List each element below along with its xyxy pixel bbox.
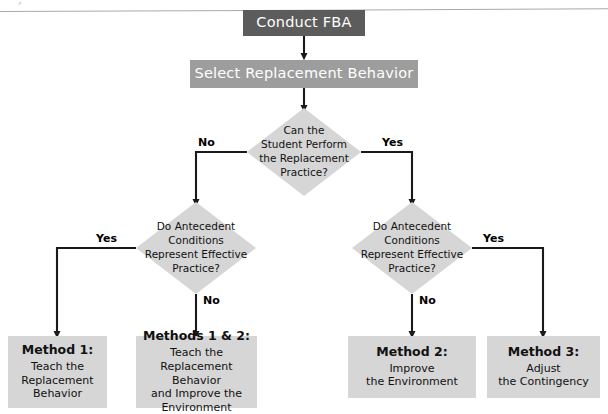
outcome-4-line-1: Adjust — [498, 362, 589, 376]
outcome-method-1-body: Teach the Replacement Behavior — [21, 360, 93, 401]
outcome-method-2[interactable]: Method 2: Improve the Environment — [348, 336, 476, 398]
decision1-line-2: Student Perform — [259, 138, 349, 152]
decision2r-line-2: Conditions — [361, 234, 463, 248]
edge-label-antecedent-left-no: No — [203, 294, 220, 307]
outcome-2-line-1: Teach the — [139, 346, 254, 360]
outcome-method-2-body: Improve the Environment — [366, 362, 458, 390]
outcome-2-line-3: and Improve the — [139, 387, 254, 401]
decision1-line-3: the Replacement — [259, 152, 349, 166]
decision-antecedent-left-text: Do Antecedent Conditions Represent Effec… — [136, 202, 256, 294]
outcome-method-2-heading: Method 2: — [376, 345, 447, 360]
outcome-1-line-2: Replacement — [21, 374, 93, 388]
decision2r-line-3: Represent Effective — [361, 248, 463, 262]
decision2l-line-4: Practice? — [145, 262, 247, 276]
decision-can-student-perform-text: Can the Student Perform the Replacement … — [247, 108, 361, 196]
decision-can-student-perform[interactable]: Can the Student Perform the Replacement … — [247, 108, 361, 196]
edge-label-decision1-yes: Yes — [382, 136, 403, 149]
outcome-2-line-4: Environment — [139, 401, 254, 414]
decision2l-line-1: Do Antecedent — [145, 220, 247, 234]
outcome-methods-1-and-2-body: Teach the Replacement Behavior and Impro… — [139, 346, 254, 414]
node-conduct-fba-label: Conduct FBA — [256, 14, 351, 31]
node-conduct-fba[interactable]: Conduct FBA — [243, 10, 365, 36]
flowchart-canvas: ’ Conduct FBA — [0, 0, 608, 414]
decision-antecedent-right[interactable]: Do Antecedent Conditions Represent Effec… — [352, 202, 472, 294]
outcome-3-line-1: Improve — [366, 362, 458, 376]
outcome-1-line-1: Teach the — [21, 360, 93, 374]
outcome-method-1-heading: Method 1: — [22, 343, 93, 358]
outcome-3-line-2: the Environment — [366, 375, 458, 389]
edge-label-antecedent-left-yes: Yes — [96, 232, 117, 245]
edge-label-antecedent-right-yes: Yes — [483, 232, 504, 245]
decision1-line-4: Practice? — [259, 166, 349, 180]
decision-antecedent-left[interactable]: Do Antecedent Conditions Represent Effec… — [136, 202, 256, 294]
outcome-method-3[interactable]: Method 3: Adjust the Contingency — [487, 336, 600, 398]
outcome-4-line-2: the Contingency — [498, 375, 589, 389]
decision2r-line-1: Do Antecedent — [361, 220, 463, 234]
decision1-line-1: Can the — [259, 124, 349, 138]
decision2r-line-4: Practice? — [361, 262, 463, 276]
outcome-2-line-2: Replacement Behavior — [139, 360, 254, 388]
decision2l-line-2: Conditions — [145, 234, 247, 248]
node-select-replacement-behavior-label: Select Replacement Behavior — [194, 65, 413, 82]
node-select-replacement-behavior[interactable]: Select Replacement Behavior — [190, 60, 418, 88]
edge-label-decision1-no: No — [198, 136, 215, 149]
outcome-method-1[interactable]: Method 1: Teach the Replacement Behavior — [8, 336, 107, 408]
edge-label-antecedent-right-no: No — [419, 294, 436, 307]
decision2l-line-3: Represent Effective — [145, 248, 247, 262]
outcome-methods-1-and-2[interactable]: Methods 1 & 2: Teach the Replacement Beh… — [136, 336, 257, 408]
outcome-method-3-heading: Method 3: — [508, 345, 579, 360]
outcome-method-3-body: Adjust the Contingency — [498, 362, 589, 390]
outcome-methods-1-and-2-heading: Methods 1 & 2: — [143, 329, 250, 344]
decision-antecedent-right-text: Do Antecedent Conditions Represent Effec… — [352, 202, 472, 294]
outcome-1-line-3: Behavior — [21, 387, 93, 401]
